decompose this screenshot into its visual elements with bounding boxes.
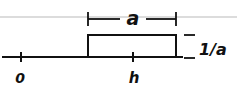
width-label: a (127, 7, 140, 29)
tick-label-zero: 0 (15, 70, 25, 86)
height-label: 1/a (199, 40, 227, 59)
tick-label-h: h (129, 69, 140, 87)
pulse-diagram: 0 h a 1/a (0, 0, 237, 110)
